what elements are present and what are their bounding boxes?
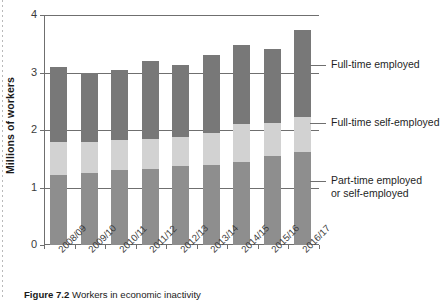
bar-2014-15[interactable] <box>233 15 250 245</box>
bar-segment-1 <box>203 133 220 165</box>
y-tick-label-4: 4 <box>20 9 37 20</box>
bar-segment-2 <box>81 73 98 142</box>
figure-caption: Figure 7.2 Workers in economic inactivit… <box>24 289 424 300</box>
bar-segment-2 <box>172 65 189 137</box>
bar-segment-2 <box>111 70 128 140</box>
bar-segment-2 <box>142 61 159 139</box>
x-axis-tick-labels: 2008/092009/102010/112011/122012/132013/… <box>44 247 344 292</box>
y-tick-mark-4 <box>40 15 44 16</box>
bar-segment-1 <box>142 139 159 169</box>
y-tick-mark-3 <box>40 73 44 74</box>
legend-leader-line-2 <box>310 181 326 182</box>
figure-caption-label: Figure 7.2 <box>24 289 69 300</box>
bar-segment-1 <box>81 142 98 174</box>
bar-segment-1 <box>111 140 128 170</box>
bar-segment-0 <box>50 175 67 245</box>
y-axis-title-label: Millions of workers <box>4 77 16 174</box>
legend-leader-line-0 <box>310 65 326 66</box>
bar-2012-13[interactable] <box>172 15 189 245</box>
legend-label-2: Part-time employed or self-employed <box>331 174 422 200</box>
bar-segment-2 <box>264 49 281 123</box>
y-tick-label-0: 0 <box>20 239 37 250</box>
bar-2010-11[interactable] <box>111 15 128 245</box>
bar-2013-14[interactable] <box>203 15 220 245</box>
bar-segment-2 <box>233 45 250 124</box>
bar-2009-10[interactable] <box>81 15 98 245</box>
y-tick-label-3: 3 <box>20 67 37 78</box>
y-tick-mark-2 <box>40 130 44 131</box>
bar-2008-09[interactable] <box>50 15 67 245</box>
y-tick-label-2: 2 <box>20 124 37 135</box>
bar-segment-2 <box>294 30 311 117</box>
plot-area: 01234 <box>44 15 319 245</box>
bar-segment-2 <box>203 55 220 133</box>
bar-segment-1 <box>233 124 250 161</box>
bar-segment-1 <box>294 117 311 152</box>
bar-2016-17[interactable] <box>294 15 311 245</box>
bar-2015-16[interactable] <box>264 15 281 245</box>
y-tick-label-1: 1 <box>20 182 37 193</box>
legend-label-1: Full-time self-employed <box>331 116 440 129</box>
y-tick-mark-1 <box>40 188 44 189</box>
bar-segment-2 <box>50 67 67 142</box>
bar-2011-12[interactable] <box>142 15 159 245</box>
legend-leader-line-1 <box>310 123 326 124</box>
legend-label-0: Full-time employed <box>331 58 420 71</box>
y-axis-title: Millions of workers <box>2 58 18 193</box>
bar-segment-1 <box>172 137 189 166</box>
bar-segment-1 <box>50 142 67 175</box>
bar-segment-1 <box>264 123 281 156</box>
figure-caption-text: Workers in economic inactivity <box>72 289 201 300</box>
